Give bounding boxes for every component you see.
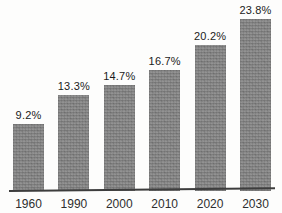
bar [58, 95, 89, 191]
bar-value-label: 14.7% [103, 70, 135, 82]
x-axis-tick-label: 2030 [242, 197, 269, 211]
bar [149, 70, 180, 191]
bar-value-label: 13.3% [58, 80, 90, 92]
bar [13, 124, 44, 191]
bar-column: 16.7%2010 [149, 70, 180, 191]
bar [195, 45, 226, 191]
bar-column: 23.8%2030 [240, 19, 271, 191]
bar-chart: 9.2%196013.3%199014.7%200016.7%201020.2%… [0, 0, 282, 213]
bar-column: 9.2%1960 [13, 124, 44, 191]
bar [104, 85, 135, 191]
bar-value-label: 16.7% [149, 55, 181, 67]
x-axis-tick-label: 2010 [151, 197, 178, 211]
x-axis-tick-label: 2000 [106, 197, 133, 211]
bar-column: 14.7%2000 [104, 85, 135, 191]
x-axis-line [9, 187, 275, 192]
bar-column: 13.3%1990 [58, 95, 89, 191]
bar [240, 19, 271, 191]
bar-value-label: 20.2% [194, 30, 226, 42]
x-axis-tick-label: 1990 [61, 197, 88, 211]
x-axis-tick-label: 2020 [197, 197, 224, 211]
bar-value-label: 23.8% [239, 4, 271, 16]
bar-value-label: 9.2% [16, 109, 42, 121]
x-axis-tick-label: 1960 [15, 197, 42, 211]
bar-column: 20.2%2020 [195, 45, 226, 191]
